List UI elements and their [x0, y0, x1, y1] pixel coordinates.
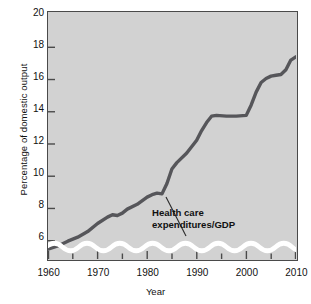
chart-figure: Percentage of domestic output 6810121416… [0, 0, 311, 304]
y-tick-label: 6 [18, 232, 44, 242]
y-tick-label: 8 [18, 200, 44, 210]
x-tick-label: 2000 [224, 268, 270, 278]
y-tick-marks [48, 47, 55, 240]
x-tick-label: 2010 [273, 268, 311, 278]
annotation-health-care-gdp: Health care expenditures/GDP [152, 207, 280, 230]
x-tick-label: 1960 [26, 268, 72, 278]
x-tick-label: 1970 [75, 268, 121, 278]
x-tick-label: 1990 [174, 268, 220, 278]
y-axis-tick-labels: 68101214161820 [14, 0, 44, 304]
axis-break-wave [48, 243, 296, 251]
y-tick-label: 20 [18, 8, 44, 18]
x-tick-label: 1980 [125, 268, 171, 278]
y-tick-label: 10 [18, 168, 44, 178]
x-axis-title: Year [0, 286, 311, 297]
y-tick-label: 14 [18, 104, 44, 114]
y-tick-label: 12 [18, 136, 44, 146]
y-tick-label: 16 [18, 72, 44, 82]
annotation-line-2: expenditures/GDP [152, 219, 280, 231]
x-axis-tick-labels: 196019701980199020002010 [0, 268, 311, 284]
annotation-line-1: Health care [152, 207, 280, 219]
y-tick-label: 18 [18, 40, 44, 50]
